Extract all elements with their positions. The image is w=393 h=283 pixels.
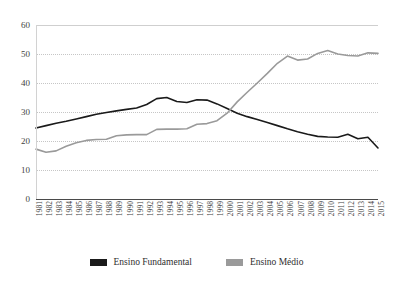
x-axis-tick-label: 1989 xyxy=(116,201,124,216)
x-axis-tick-label: 1999 xyxy=(217,201,225,216)
x-axis-tick-label: 1994 xyxy=(167,201,175,216)
x-axis-tick-label: 1982 xyxy=(46,201,54,216)
x-axis-tick-label: 2001 xyxy=(237,201,245,216)
x-axis-tick-label: 1993 xyxy=(157,201,165,216)
x-axis-tick-label: 1981 xyxy=(36,201,44,216)
x-axis-tick-label: 1998 xyxy=(207,201,215,216)
chart-legend: Ensino FundamentalEnsino Médio xyxy=(0,252,393,272)
legend-swatch-icon xyxy=(90,259,107,266)
legend-label: Ensino Médio xyxy=(250,257,304,267)
x-axis-tick-label: 2011 xyxy=(338,201,346,216)
x-axis-tick-label: 1990 xyxy=(127,201,135,216)
x-axis-tick-labels: 1981198219831984198519861987198819891990… xyxy=(36,201,378,243)
x-axis-tick-label: 1986 xyxy=(86,201,94,216)
y-axis-tick-label: 10 xyxy=(0,166,30,175)
legend-item[interactable]: Ensino Fundamental xyxy=(90,257,192,267)
x-axis-tick-label: 1995 xyxy=(177,201,185,216)
x-axis-tick-label: 2005 xyxy=(277,201,285,216)
x-axis-tick-label: 2015 xyxy=(378,201,386,216)
x-axis-tick-label: 2003 xyxy=(257,201,265,216)
x-axis-tick-label: 1991 xyxy=(137,201,145,216)
x-axis-tick-label: 1996 xyxy=(187,201,195,216)
x-axis-line xyxy=(36,199,378,200)
x-axis-tick-label: 1988 xyxy=(106,201,114,216)
legend-item[interactable]: Ensino Médio xyxy=(226,257,304,267)
x-axis-tick-label: 2009 xyxy=(318,201,326,216)
x-axis-tick-label: 1984 xyxy=(66,201,74,216)
y-axis-tick-label: 60 xyxy=(0,21,30,30)
x-axis-tick-label: 2008 xyxy=(308,201,316,216)
x-axis-tick-label: 1987 xyxy=(96,201,104,216)
x-axis-tick-label: 2004 xyxy=(267,201,275,216)
x-axis-tick-label: 1997 xyxy=(197,201,205,216)
y-axis-tick-label: 40 xyxy=(0,79,30,88)
y-axis-tick-label: 50 xyxy=(0,50,30,59)
chart-title xyxy=(0,0,393,2)
x-axis-tick-label: 1985 xyxy=(76,201,84,216)
y-axis-tick-label: 0 xyxy=(0,195,30,204)
x-axis-tick-label: 2007 xyxy=(298,201,306,216)
x-axis-tick-label: 2002 xyxy=(247,201,255,216)
y-axis-tick-label: 20 xyxy=(0,137,30,146)
x-axis-tick-label: 1983 xyxy=(56,201,64,216)
x-axis-tick-label: 2013 xyxy=(358,201,366,216)
plot-area xyxy=(36,25,378,199)
x-axis-tick-label: 2006 xyxy=(287,201,295,216)
x-axis-tick-label: 2012 xyxy=(348,201,356,216)
x-axis-tick-label: 2010 xyxy=(328,201,336,216)
legend-swatch-icon xyxy=(226,259,243,266)
x-axis-tick-label: 1992 xyxy=(147,201,155,216)
line-chart: 0102030405060 19811982198319841985198619… xyxy=(0,0,393,283)
x-axis-tick-label: 2014 xyxy=(368,201,376,216)
y-axis-tick-label: 30 xyxy=(0,108,30,117)
series-layer xyxy=(36,25,378,199)
legend-label: Ensino Fundamental xyxy=(114,257,192,267)
x-axis-tick-label: 2000 xyxy=(227,201,235,216)
y-axis-line xyxy=(36,25,37,199)
